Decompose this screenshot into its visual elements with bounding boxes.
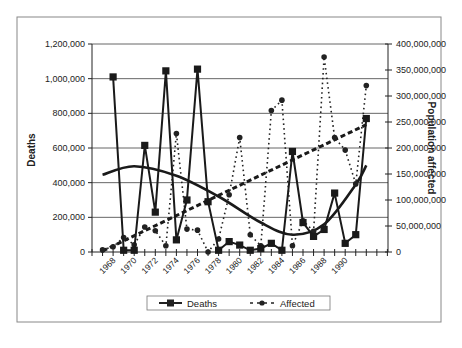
y2-tick-label: 250,000,000 (396, 117, 446, 127)
y2-tick-label: 150,000,000 (396, 169, 446, 179)
legend-deaths-label: Deaths (187, 298, 217, 309)
y-tick-label: 800,000 (52, 108, 85, 118)
y2-tick-label: 50,000,000 (396, 221, 441, 231)
deaths-marker (289, 148, 296, 155)
legend: Deaths Affected (147, 296, 330, 310)
y2-tick-label: 350,000,000 (396, 65, 446, 75)
affected-marker (247, 232, 253, 238)
deaths-marker (120, 247, 127, 254)
deaths-marker (215, 247, 222, 254)
legend-affected-marker-icon (259, 300, 264, 305)
deaths-marker (268, 240, 275, 247)
deaths-marker (110, 73, 117, 80)
y2-tick-label: 0 (396, 247, 401, 257)
deaths-marker (152, 209, 159, 216)
affected-marker (353, 181, 359, 187)
affected-marker (332, 135, 338, 141)
deaths-marker (299, 219, 306, 226)
deaths-marker (194, 66, 201, 73)
deaths-marker (342, 240, 349, 247)
y2-tick-label: 200,000,000 (396, 143, 446, 153)
y-axis-label: Deaths (26, 133, 37, 167)
affected-marker (174, 131, 180, 137)
affected-marker (226, 192, 232, 198)
affected-marker (279, 97, 285, 103)
affected-marker (142, 224, 148, 230)
affected-marker (364, 83, 370, 89)
affected-marker (163, 243, 169, 249)
deaths-marker (257, 245, 264, 252)
y2-axis-label: Population affected (426, 102, 437, 195)
deaths-marker (141, 142, 148, 149)
chart: 0200,000400,000600,000800,0001,000,0001,… (0, 0, 462, 348)
affected-marker (237, 135, 243, 141)
deaths-marker (310, 233, 317, 240)
deaths-marker (226, 238, 233, 245)
y-tick-label: 1,200,000 (45, 39, 85, 49)
affected-marker (342, 147, 348, 153)
y2-tick-label: 400,000,000 (396, 39, 446, 49)
affected-marker (100, 247, 106, 253)
affected-marker (269, 108, 275, 114)
deaths-marker (352, 231, 359, 238)
deaths-marker (236, 241, 243, 248)
deaths-marker (331, 189, 338, 196)
affected-marker (195, 227, 201, 233)
legend-deaths-marker-icon (167, 300, 174, 307)
y-tick-label: 600,000 (52, 143, 85, 153)
y2-tick-label: 300,000,000 (396, 91, 446, 101)
legend-affected-label: Affected (280, 298, 315, 309)
affected-marker (290, 243, 296, 249)
affected-marker (110, 244, 116, 250)
deaths-marker (131, 247, 138, 254)
affected-marker (153, 228, 159, 234)
deaths-marker (321, 226, 328, 233)
deaths-marker (278, 247, 285, 254)
affected-marker (205, 249, 211, 255)
deaths-marker (247, 247, 254, 254)
y-tick-label: 200,000 (52, 212, 85, 222)
deaths-marker (183, 196, 190, 203)
y2-tick-label: 100,000,000 (396, 195, 446, 205)
y-tick-label: 0 (80, 247, 85, 257)
deaths-marker (162, 67, 169, 74)
y-tick-label: 1,000,000 (45, 74, 85, 84)
chart-border (17, 17, 441, 322)
y-tick-label: 400,000 (52, 178, 85, 188)
deaths-marker (204, 198, 211, 205)
deaths-marker (363, 115, 370, 122)
affected-marker (184, 226, 190, 232)
affected-marker (321, 54, 327, 60)
deaths-marker (173, 236, 180, 243)
